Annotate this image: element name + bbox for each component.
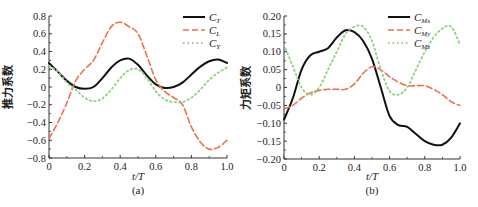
x-tick-label: 0.8 — [185, 161, 198, 172]
legend-label: CMz — [414, 37, 430, 51]
y-tick-label: −0.8 — [27, 153, 46, 164]
y-tick-label: 0.15 — [263, 28, 281, 39]
x-tick-label: 0 — [46, 161, 51, 172]
x-tick-label: 0 — [281, 162, 286, 173]
panel-b: 0.200.150.100.050−0.05−0.10−0.15−0.2000.… — [239, 11, 467, 198]
x-tick-label: 1.0 — [453, 162, 466, 173]
y-tick-label: 0.8 — [33, 11, 46, 22]
x-axis-label: t/T — [132, 170, 145, 182]
y-tick-label: 0 — [276, 82, 281, 93]
y-tick-label: −0.05 — [257, 100, 281, 111]
y-tick-label: 0.4 — [33, 46, 47, 57]
y-tick-label: 0.2 — [33, 64, 46, 75]
panel-a: 0.80.60.40.20−0.2−0.4−0.6−0.800.20.40.60… — [1, 11, 234, 198]
y-tick-label: 0.6 — [33, 28, 46, 39]
x-tick-label: 0.4 — [348, 162, 362, 173]
y-tick-label: −0.10 — [257, 118, 281, 129]
x-axis-label: t/T — [366, 170, 379, 182]
x-tick-label: 0.2 — [78, 161, 91, 172]
legend-label: CL — [209, 24, 220, 38]
y-tick-label: −0.15 — [257, 136, 281, 147]
x-tick-label: 0.6 — [383, 162, 396, 173]
y-tick-label: −0.2 — [27, 99, 46, 110]
chart-figure: 0.80.60.40.20−0.2−0.4−0.6−0.800.20.40.60… — [0, 0, 478, 207]
y-tick-label: 0.05 — [263, 64, 281, 75]
legend-label: CMx — [414, 11, 431, 25]
series-line-c-my — [284, 67, 460, 109]
legend-label: CY — [209, 37, 221, 51]
x-tick-label: 0.2 — [313, 162, 326, 173]
y-tick-label: 0.10 — [263, 46, 281, 57]
x-tick-label: 0.8 — [418, 162, 431, 173]
series-line-c-y — [49, 66, 227, 103]
series-line-c-t — [49, 58, 227, 88]
y-axis-label: 力矩系数 — [239, 65, 253, 110]
panel-label: (b) — [366, 184, 379, 197]
y-tick-label: −0.4 — [27, 117, 47, 128]
y-tick-label: −0.6 — [27, 135, 46, 146]
y-tick-label: 0.20 — [263, 11, 281, 22]
y-tick-label: 0 — [41, 82, 46, 93]
legend-label: CT — [209, 11, 221, 25]
legend-label: CMy — [414, 24, 431, 38]
series-line-c-l — [49, 22, 227, 149]
series-line-c-mx — [284, 30, 460, 145]
y-tick-label: −0.20 — [257, 154, 281, 165]
x-tick-label: 0.4 — [114, 161, 128, 172]
x-tick-label: 1.0 — [220, 161, 233, 172]
x-tick-label: 0.6 — [149, 161, 162, 172]
panel-label: (a) — [132, 184, 145, 197]
y-axis-label: 推力系数 — [1, 64, 15, 109]
